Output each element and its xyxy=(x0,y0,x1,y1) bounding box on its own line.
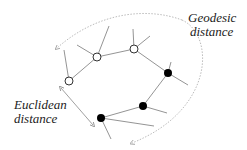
geodesic-arrow xyxy=(57,13,182,48)
edges xyxy=(64,26,188,139)
open-node xyxy=(130,45,138,53)
geodesic-label: Geodesic distance xyxy=(188,11,236,39)
filled-node xyxy=(164,69,172,77)
filled-node xyxy=(97,114,105,122)
open-node xyxy=(65,77,73,85)
euclidean-label: Euclidean distance xyxy=(14,98,67,126)
open-node xyxy=(93,53,101,61)
diagram-canvas: Geodesic distance Euclidean distance xyxy=(0,0,247,150)
filled-node xyxy=(139,102,147,110)
